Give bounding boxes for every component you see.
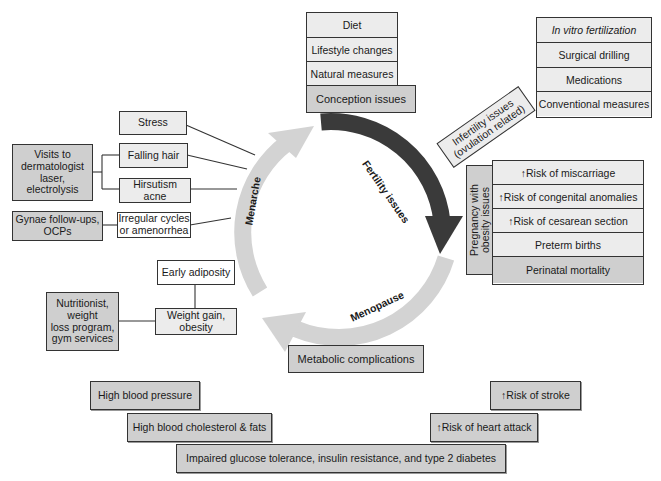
nutritionist-line2: weight [51, 310, 115, 322]
stress-box: Stress [119, 111, 187, 135]
pregnancy-item-miscarriage: ↑Risk of miscarriage [493, 161, 643, 185]
weight-gain-box: Weight gain, obesity [155, 308, 237, 335]
pregnancy-item-cesarean: ↑Risk of cesarean section [493, 209, 643, 233]
treatment-conventional: Conventional measures [537, 92, 651, 116]
conception-item-natural: Natural measures [307, 62, 397, 85]
weight-gain-line2: obesity [167, 322, 225, 334]
irregular-cycles-box: Irregular cycles or amenorrhea [117, 212, 191, 238]
nutritionist-line4: gym services [51, 333, 115, 345]
hirsutism-acne-box: Hirsutism acne [119, 178, 191, 203]
risk-of-heart-attack-box: ↑Risk of heart attack [430, 413, 538, 442]
falling-hair-box: Falling hair [119, 143, 188, 168]
early-adiposity-box: Early adiposity [157, 260, 235, 285]
pregnancy-item-perinatal: Perinatal mortality [493, 257, 643, 283]
menopause-arrow [296, 258, 446, 338]
gynae-followups-box: Gynae follow-ups, OCPs [12, 211, 103, 241]
risk-of-stroke-box: ↑Risk of stroke [490, 381, 581, 410]
conception-item-diet: Diet [307, 13, 397, 38]
high-blood-pressure-box: High blood pressure [90, 381, 200, 410]
hirsutism-line2: acne [133, 191, 177, 203]
dermatologist-line4: electrolysis [21, 184, 84, 196]
weight-gain-line1: Weight gain, [167, 310, 225, 322]
dermatologist-line1: Visits to [21, 149, 84, 161]
conception-item-lifestyle: Lifestyle changes [307, 38, 397, 62]
nutritionist-box: Nutritionist, weight loss program, gym s… [46, 292, 119, 351]
pregnancy-item-congenital: ↑Risk of congenital anomalies [493, 185, 643, 209]
pregnancy-risk-stack: ↑Risk of miscarriage ↑Risk of congenital… [492, 160, 644, 285]
nutritionist-line1: Nutritionist, [51, 298, 115, 310]
infertility-treatment-stack: In vitro fertilization Surgical drilling… [536, 17, 652, 118]
hirsutism-line1: Hirsutism [133, 179, 177, 191]
fertility-arrow [321, 122, 442, 222]
dermatologist-line2: dermatologist [21, 161, 84, 173]
impaired-glucose-box: Impaired glucose tolerance, insulin resi… [176, 444, 506, 473]
fertility-arrowhead [425, 216, 463, 254]
conception-stack: Diet Lifestyle changes Natural measures [306, 12, 398, 86]
dermatologist-box: Visits to dermatologist laser, electroly… [12, 144, 93, 201]
irregular-line2: or amenorrhea [118, 225, 189, 237]
pregnancy-obesity-label-box: Pregnancy with obesity issues [466, 165, 493, 275]
treatment-ivf: In vitro fertilization [537, 18, 651, 43]
metabolic-complications-box: Metabolic complications [288, 345, 424, 373]
conception-issues-box: Conception issues [306, 85, 416, 113]
pregnancy-label-line1: Pregnancy with [468, 184, 479, 256]
high-cholesterol-box: High blood cholesterol & fats [127, 413, 272, 442]
gynae-line2: OCPs [15, 226, 99, 238]
treatment-medications: Medications [537, 68, 651, 92]
pregnancy-item-preterm: Preterm births [493, 233, 643, 257]
pregnancy-label-line2: obesity issues [480, 184, 491, 256]
treatment-surgical-drilling: Surgical drilling [537, 43, 651, 68]
